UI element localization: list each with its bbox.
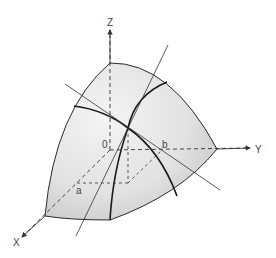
z-axis-label: Z (107, 17, 113, 28)
x-axis-label: X (13, 237, 20, 248)
point-b-label: b (162, 139, 168, 150)
surface-diagram: Z Y X 0 a b (0, 0, 276, 258)
y-axis-visible (217, 148, 250, 149)
point-a-label: a (76, 185, 82, 196)
origin-label: 0 (102, 139, 108, 150)
y-axis-label: Y (255, 144, 262, 155)
surface-patch (45, 63, 217, 220)
diagram-canvas: Z Y X 0 a b (0, 0, 276, 258)
x-axis-visible (22, 216, 45, 237)
